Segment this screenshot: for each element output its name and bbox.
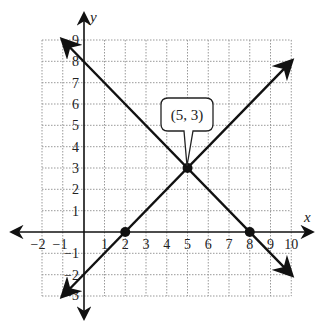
y-tick: 6 [72,97,79,112]
x-tick: 7 [226,237,233,252]
decreasing-line [63,40,292,275]
x-tick: 5 [184,237,191,252]
x-axis-label: x [303,209,311,225]
coordinate-graph: x y −2 −1 1 2 3 4 5 6 7 8 9 10 9 8 7 6 5… [0,0,318,334]
y-tick: 9 [72,33,79,48]
x-tick: −2 [31,237,46,252]
x-tick: 6 [205,237,212,252]
increasing-line [63,61,292,296]
y-tick: 1 [72,204,79,219]
y-tick: 5 [72,118,79,133]
x-tick: 2 [122,237,129,252]
x-intercept-point-2 [120,227,130,237]
x-tick: 10 [284,237,298,252]
y-tick: 4 [72,140,79,155]
x-tick: 4 [163,237,170,252]
y-tick: −1 [64,246,79,261]
y-tick: 2 [72,182,79,197]
y-tick: 7 [72,76,79,91]
y-tick: −3 [64,288,79,303]
grid-lines [42,40,291,296]
x-tick: 3 [143,237,150,252]
x-tick: 8 [246,237,253,252]
y-tick: 3 [72,161,79,176]
y-axis-label: y [88,9,97,25]
callout-label: (5, 3) [171,107,204,124]
x-intercept-point-8 [245,227,255,237]
intersection-callout: (5, 3) [161,98,213,166]
